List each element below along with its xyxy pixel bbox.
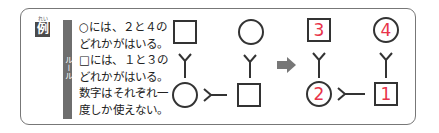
answer-diagram: 3 4 2 1 — [300, 15, 410, 125]
puzzle-diagram — [165, 15, 270, 125]
circle-top-right — [239, 20, 263, 44]
rule-tag: ルール — [63, 56, 72, 80]
answer-value-bottom-left: 2 — [314, 84, 325, 104]
connector-bottom — [204, 89, 227, 101]
rule-line: 度しか使えない。 — [79, 102, 169, 119]
answer-value-bottom-right: 1 — [381, 84, 392, 104]
rule-line: どれかがはいる。 — [79, 69, 169, 86]
rule-line: 数字はそれぞれ一 — [79, 85, 169, 102]
right-arrow-icon — [277, 57, 297, 73]
rule-line: ○には、２と４の — [79, 19, 169, 36]
answer-value-top-left: 3 — [314, 20, 325, 40]
connector-right — [244, 55, 256, 78]
rule-line: □には、１と３の — [79, 52, 169, 69]
rule-line: どれかがはいる。 — [79, 36, 169, 53]
answer-connector-right — [380, 53, 392, 78]
answer-connector-left — [313, 53, 325, 78]
answer-connector-bottom — [338, 88, 365, 100]
square-top-left — [174, 21, 196, 43]
rule-text: ○には、２と４の どれかがはいる。 □には、１と３の どれかがはいる。 数字はそ… — [79, 19, 169, 118]
example-label: 例 — [35, 22, 50, 37]
square-bottom-right — [238, 84, 260, 106]
circle-bottom-left — [173, 83, 197, 107]
answer-value-top-right: 4 — [381, 20, 392, 40]
example-ruby: れい — [36, 15, 50, 21]
connector-left — [179, 54, 191, 78]
